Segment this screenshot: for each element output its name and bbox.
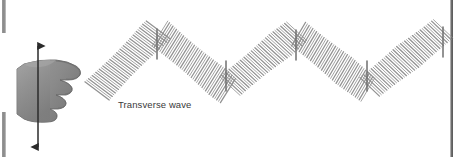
- figure-canvas: [0, 0, 458, 157]
- coil-stroke: [175, 41, 189, 64]
- wave-label: Transverse wave: [118, 99, 191, 111]
- coil-stroke: [310, 38, 324, 61]
- coil-stroke: [314, 40, 328, 63]
- coil-stroke: [316, 42, 330, 65]
- coil-stroke: [309, 36, 323, 59]
- coil-stroke: [297, 27, 311, 50]
- coil-stroke: [301, 30, 315, 53]
- coil-stroke: [305, 33, 319, 56]
- coil-stroke: [179, 44, 193, 67]
- coil-stroke: [307, 35, 321, 58]
- coil-stroke: [182, 47, 196, 70]
- slinky-coils: [85, 20, 453, 103]
- coil-stroke: [312, 39, 326, 62]
- hand-icon: [17, 60, 81, 122]
- transverse-wave-figure: Transverse wave: [0, 0, 458, 157]
- coil-stroke: [186, 50, 200, 73]
- coil-stroke: [189, 53, 203, 76]
- coil-stroke: [320, 45, 334, 69]
- coil-stroke: [303, 32, 317, 55]
